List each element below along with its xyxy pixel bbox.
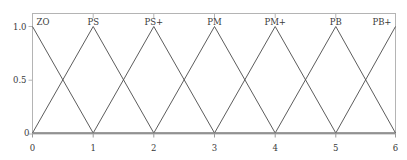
y-tick-label-0: 0 <box>24 128 29 138</box>
x-tick-label-3: 3 <box>212 143 217 153</box>
x-tick-label-2: 2 <box>151 143 156 153</box>
plot-frame <box>33 14 396 135</box>
x-tick-label-6: 6 <box>393 143 398 153</box>
x-tick-label-5: 5 <box>333 143 338 153</box>
chart-canvas: 1.0 0.5 0 0 1 2 3 4 5 6 ZO PS PS+ PM PM+… <box>0 0 407 160</box>
y-tick-marks <box>29 27 33 135</box>
series-label-pm: PM <box>207 17 222 27</box>
y-tick-label-0-5: 0.5 <box>13 75 27 85</box>
fuzzy-membership-chart: 1.0 0.5 0 0 1 2 3 4 5 6 ZO PS PS+ PM PM+… <box>0 0 407 160</box>
series-label-ps-plus: PS+ <box>144 17 163 27</box>
series-label-pm-plus: PM+ <box>264 17 286 27</box>
x-tick-label-0: 0 <box>30 143 35 153</box>
x-tick-label-4: 4 <box>272 143 277 153</box>
series-line-pm-plus <box>215 27 336 134</box>
series-label-pb: PB <box>330 17 342 27</box>
y-tick-label-1: 1.0 <box>13 22 27 32</box>
series-label-ps: PS <box>87 17 99 27</box>
series-line-pb <box>275 27 395 134</box>
series-line-pm <box>154 27 275 134</box>
series-line-ps-plus <box>93 27 214 134</box>
series-lines <box>33 27 396 134</box>
x-tick-label-1: 1 <box>90 143 95 153</box>
x-tick-marks <box>33 134 396 138</box>
frame-border <box>33 14 396 135</box>
series-label-zo: ZO <box>37 17 50 27</box>
series-line-ps <box>33 27 154 134</box>
series-label-pb-plus: PB+ <box>372 17 391 27</box>
